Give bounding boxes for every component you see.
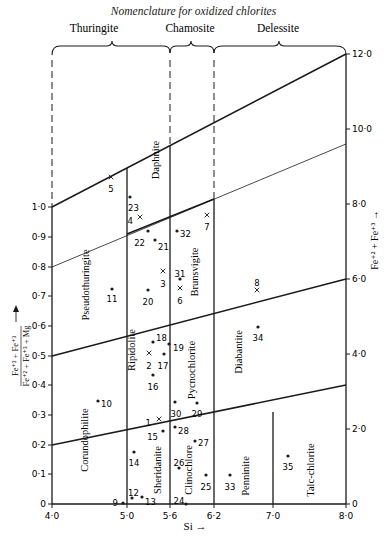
cross-marker-icon — [147, 351, 152, 356]
sample-point-29: 29 — [192, 401, 203, 419]
right-tick-label: 8·0 — [352, 199, 367, 209]
point-label: 23 — [128, 203, 139, 213]
sample-point-26: 26 — [174, 458, 185, 470]
left-tick-label: 0·7 — [32, 291, 46, 301]
point-label: 27 — [198, 438, 209, 448]
point-label: 21 — [158, 242, 169, 252]
dot-marker-icon — [204, 473, 207, 476]
field-label-penninite: Penninite — [240, 456, 251, 496]
left-tick-label: 0·3 — [32, 410, 46, 420]
sample-point-6: 6 — [177, 286, 182, 306]
field-label-talc-chlorite: Talc-chlorite — [305, 443, 316, 497]
point-label: 2 — [146, 361, 151, 371]
group-braces — [52, 41, 346, 55]
point-label: 5 — [108, 184, 113, 194]
group-label-thuringite: Thuringite — [70, 22, 119, 35]
point-label: 22 — [134, 238, 145, 248]
point-label: 31 — [175, 269, 186, 279]
left-tick-label: 0·8 — [32, 262, 47, 272]
dot-marker-icon — [173, 425, 176, 428]
sample-point-8: 8 — [254, 278, 259, 292]
dot-marker-icon — [96, 399, 99, 402]
right-tick-label: 12·0 — [352, 49, 372, 59]
point-label: 19 — [173, 343, 184, 353]
dot-marker-icon — [128, 195, 131, 198]
left-tick-label: 1·0 — [32, 202, 47, 212]
point-label: 25 — [201, 482, 212, 492]
dot-marker-icon — [195, 401, 198, 404]
point-label: 8 — [254, 278, 259, 288]
sample-point-23: 23 — [128, 195, 139, 213]
dot-marker-icon — [193, 439, 196, 442]
dot-marker-icon — [132, 450, 135, 453]
left-tick-label: 0·5 — [32, 351, 46, 361]
point-label: 28 — [178, 426, 189, 436]
right-tick-label: 0 — [352, 499, 358, 509]
point-label: 13 — [145, 497, 156, 507]
left-tick-label: 0·6 — [32, 321, 47, 331]
dot-marker-icon — [153, 238, 156, 241]
sample-point-32: 32 — [175, 229, 190, 239]
dot-marker-icon — [228, 473, 231, 476]
group-label-chamosite: Chamosite — [165, 22, 214, 34]
sample-point-33: 33 — [225, 473, 236, 492]
cross-marker-icon — [161, 269, 166, 274]
x-tick-label: 5·0 — [120, 511, 135, 521]
right-tick-label: 2·0 — [352, 424, 367, 434]
sample-point-21: 21 — [153, 238, 168, 252]
field-label-sheridanite: Sheridanite — [152, 446, 163, 494]
point-label: 17 — [158, 361, 169, 371]
point-label: 11 — [107, 294, 118, 304]
field-label-diabantite: Diabantite — [233, 330, 244, 374]
x-tick-label: 7·0 — [266, 511, 281, 521]
sample-point-15: 15 — [147, 429, 164, 442]
dot-marker-icon — [286, 454, 289, 457]
sample-point-1: 1 — [146, 417, 162, 428]
sample-point-25: 25 — [201, 473, 212, 492]
point-label: 14 — [129, 458, 140, 468]
point-label: 26 — [174, 458, 185, 468]
left-tick-label: 0·2 — [32, 440, 46, 450]
point-label: 35 — [283, 462, 294, 472]
sample-point-9: 9 — [113, 498, 125, 508]
sample-point-18: 18 — [151, 333, 166, 344]
dot-marker-icon — [121, 501, 124, 504]
x-tick-label: 5·6 — [163, 511, 178, 521]
svg-text:Fe⁺² + Fe⁺³: Fe⁺² + Fe⁺³ — [10, 335, 20, 376]
point-label: 4 — [128, 216, 133, 226]
x-axis-label: Si → — [184, 520, 207, 532]
cross-marker-icon — [255, 288, 260, 293]
sample-point-31: 31 — [175, 269, 186, 281]
sample-point-28: 28 — [173, 425, 188, 436]
point-label: 29 — [192, 409, 203, 419]
dot-marker-icon — [146, 288, 149, 291]
dot-marker-icon — [146, 229, 149, 232]
point-label: 1 — [146, 418, 151, 428]
field-label-pseudothuringite: Pseudothuringite — [80, 249, 91, 321]
sample-point-24: 24 — [174, 496, 188, 506]
sample-point-22: 22 — [134, 229, 149, 248]
sample-point-20: 20 — [143, 288, 154, 307]
field-label-ripidolite: Ripidolite — [126, 329, 137, 371]
point-label: 15 — [147, 432, 158, 442]
dot-marker-icon — [110, 287, 113, 290]
field-label-brunsvigite: Brunsvigite — [189, 247, 200, 296]
sample-point-4: 4 — [128, 215, 143, 226]
dot-marker-icon — [167, 342, 170, 345]
point-label: 20 — [143, 297, 154, 307]
group-label-delessite: Delessite — [257, 22, 299, 34]
x-tick-label: 4·0 — [45, 511, 60, 521]
point-label: 3 — [160, 279, 165, 289]
chlorite-nomenclature-diagram: Nomenclature for oxidized chlorites — [0, 0, 387, 540]
point-label: 16 — [148, 382, 159, 392]
sample-point-30: 30 — [171, 400, 182, 419]
cross-marker-icon — [157, 417, 162, 422]
right-axis-ticks: 12·010·08·06·04·02·00 — [346, 49, 372, 509]
dot-marker-icon — [175, 229, 178, 232]
sample-point-12: 12 — [128, 488, 139, 500]
right-tick-label: 4·0 — [352, 349, 367, 359]
group-labels: ThuringiteChamositeDelessite — [70, 22, 299, 35]
sample-point-14: 14 — [129, 450, 140, 468]
sample-point-17: 17 — [158, 352, 169, 371]
x-axis-ticks: 4·05·05·66·27·08·0 — [45, 504, 354, 521]
